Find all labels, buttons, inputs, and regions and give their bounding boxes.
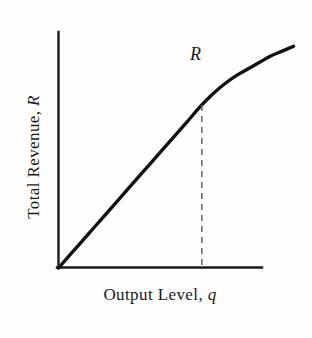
revenue-curve xyxy=(59,46,294,268)
curve-label: R xyxy=(190,44,201,65)
x-axis-label-symbol: q xyxy=(208,285,217,304)
x-axis-label: Output Level, q xyxy=(56,285,264,305)
x-axis-label-text: Output Level, xyxy=(103,285,207,304)
y-axis-label-text: Total Revenue, xyxy=(24,106,43,219)
y-axis-label: Total Revenue, R xyxy=(24,57,44,257)
y-axis-label-symbol: R xyxy=(24,95,43,106)
total-revenue-figure: Total Revenue, R Output Level, q R xyxy=(0,0,312,338)
